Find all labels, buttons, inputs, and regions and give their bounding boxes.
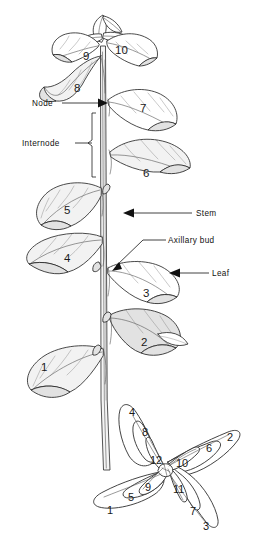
leaf-number-4: 4 (64, 252, 71, 264)
main-stem (101, 46, 111, 470)
rosette-number-11: 11 (173, 483, 184, 495)
leaf-number-6: 6 (143, 167, 149, 179)
rosette-number-10: 10 (176, 457, 188, 469)
callout-stem: Stem (123, 209, 217, 219)
callout-node-label: Node (32, 99, 53, 108)
callout-axillary-bud-label: Axillary bud (168, 236, 215, 245)
rosette-number-6: 6 (206, 442, 212, 454)
callout-internode-label: Internode (22, 139, 60, 148)
leaf-number-7: 7 (140, 102, 146, 114)
top-view-rosette (94, 405, 240, 528)
callout-node: Node (32, 99, 108, 109)
rosette-number-5: 5 (128, 491, 134, 503)
leaf-number-3: 3 (143, 287, 149, 299)
rosette-number-7: 7 (190, 505, 196, 517)
callout-internode: Internode (22, 113, 96, 177)
rosette-number-4: 4 (129, 406, 135, 418)
rosette-number-2: 2 (227, 431, 233, 443)
leaf-number-9: 9 (83, 50, 89, 62)
rosette-number-1: 1 (107, 504, 113, 516)
botanical-diagram: Node Internode Stem Axillary bud Leaf (0, 0, 262, 551)
leaf-number-8: 8 (74, 82, 80, 94)
callout-leaf-label: Leaf (212, 269, 230, 278)
callout-leaf: Leaf (169, 269, 230, 279)
leaf-number-2: 2 (141, 336, 147, 348)
rosette-number-3: 3 (203, 520, 209, 532)
shoot-apex (40, 15, 191, 174)
rosette-number-9: 9 (145, 481, 151, 493)
rosette-number-12: 12 (150, 454, 162, 466)
callout-stem-label: Stem (196, 209, 217, 218)
rosette-number-8: 8 (142, 426, 148, 438)
leaf-number-10: 10 (115, 44, 128, 56)
leaf-number-5: 5 (64, 204, 70, 216)
leaf-number-1: 1 (41, 361, 47, 373)
